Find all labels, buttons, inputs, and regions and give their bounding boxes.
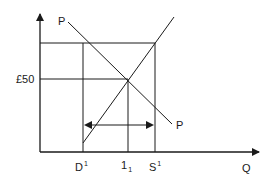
- tick-d1-base: D: [75, 161, 83, 173]
- tick-s1: S1: [149, 160, 161, 173]
- tick-d1: D1: [75, 160, 88, 173]
- demand-curve: [68, 22, 172, 124]
- arrowhead-left-icon: [84, 121, 92, 129]
- price-label: £50: [16, 74, 34, 85]
- diagram-canvas: [0, 0, 270, 181]
- tick-d1-sup: 1: [84, 160, 88, 167]
- tick-q1: 11: [121, 160, 132, 173]
- x-axis-label: Q: [242, 163, 251, 174]
- demand-label-top: P: [58, 16, 65, 27]
- tick-q1-base: 1: [121, 159, 127, 171]
- tick-q1-sub: 1: [128, 166, 132, 173]
- tick-s1-sup: 1: [157, 160, 161, 167]
- demand-label-bottom: P: [176, 120, 183, 131]
- tick-s1-base: S: [149, 161, 156, 173]
- arrowhead-right-icon: [146, 121, 154, 129]
